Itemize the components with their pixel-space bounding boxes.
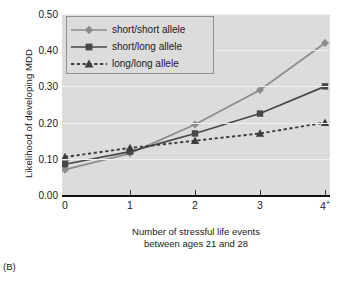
x-axis-tick-label: 1 [127, 199, 133, 211]
x-axis-tick-mark [260, 190, 261, 195]
x-axis-tick-label: 0 [62, 199, 68, 211]
x-axis-tick-mark [325, 190, 326, 195]
square-marker [86, 43, 93, 50]
y-axis-tick-label: 0.00 [39, 190, 58, 201]
x-axis-tick-labels: 01234+ [62, 199, 330, 215]
y-axis-tick-label: 0.30 [39, 81, 58, 92]
gridline [62, 159, 330, 160]
figure-panel-b: Likelihood of developing MDD 0.000.100.2… [0, 0, 348, 281]
legend-item: long/long allele [69, 55, 213, 72]
x-axis-tick-label: 2 [192, 199, 198, 211]
x-axis-tick-mark [130, 190, 131, 195]
x-axis-tick-mark [195, 190, 196, 195]
y-axis-tick-labels: 0.000.100.200.300.400.50 [18, 10, 58, 196]
x-axis-tick-label: 3 [257, 199, 263, 211]
x-axis-title: Number of stressful life events between … [62, 226, 330, 250]
legend-label: short/long allele [112, 41, 182, 52]
legend-marker-triangle [69, 56, 109, 72]
square-marker [62, 161, 68, 167]
gridline [62, 14, 330, 15]
diamond-marker [85, 25, 94, 34]
chart-legend: short/short alleleshort/long allelelong/… [66, 16, 214, 74]
x-axis-title-line1: Number of stressful life events [62, 226, 330, 238]
legend-marker-square [69, 39, 109, 55]
legend-label: short/short allele [112, 24, 185, 35]
triangle-marker [126, 144, 134, 152]
y-axis-tick-label: 0.10 [39, 153, 58, 164]
y-axis-tick-label: 0.40 [39, 45, 58, 56]
legend-item: short/short allele [69, 21, 213, 38]
y-axis-tick-label: 0.50 [39, 9, 58, 20]
square-marker [257, 110, 263, 116]
gridline [62, 123, 330, 124]
square-marker [192, 130, 198, 136]
x-axis-line [62, 195, 330, 197]
y-axis-tick-label: 0.20 [39, 117, 58, 128]
legend-item: short/long allele [69, 38, 213, 55]
x-axis-title-line2: between ages 21 and 28 [62, 238, 330, 250]
x-axis-tick-label: 4+ [320, 199, 330, 212]
legend-marker-diamond [69, 22, 109, 38]
triangle-marker [85, 59, 94, 67]
gridline [62, 86, 330, 87]
panel-caption: (B) [3, 261, 16, 272]
legend-label: long/long allele [112, 58, 179, 69]
